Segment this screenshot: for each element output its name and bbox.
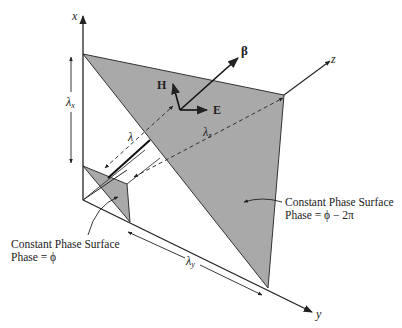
z-axis-label: z	[330, 52, 336, 66]
x-axis-label: x	[71, 9, 78, 23]
beta-label: β	[241, 43, 248, 58]
plane-wave-diagram: x y z β H E λ λx λy λz Constant Phase Su…	[0, 0, 402, 328]
h-label: H	[157, 78, 167, 92]
lambda-y-arrow-right	[200, 265, 262, 295]
constant-phase-surface-large	[83, 54, 284, 288]
back-surface-title: Constant Phase Surface	[11, 238, 120, 250]
back-surface-phase: Phase = ϕ	[11, 251, 56, 264]
y-axis	[83, 200, 312, 312]
lambda-y-label: λy	[185, 254, 195, 269]
e-label: E	[213, 103, 221, 117]
front-surface-phase: Phase = ϕ − 2π	[285, 209, 354, 222]
y-axis-label: y	[315, 307, 322, 321]
lambda-x-label: λx	[65, 95, 75, 110]
ray-thin-2	[127, 158, 160, 184]
front-surface-title: Constant Phase Surface	[285, 196, 394, 208]
z-axis	[284, 61, 330, 95]
lambda-label: λ	[127, 130, 133, 144]
